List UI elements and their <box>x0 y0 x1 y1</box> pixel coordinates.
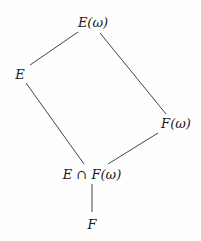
edge-Ew-Fw <box>100 33 166 114</box>
field-lattice-diagram: E(ω) E F(ω) E ∩ F(ω) F <box>0 0 201 241</box>
node-E-omega: E(ω) <box>78 16 108 29</box>
node-F-omega: F(ω) <box>161 117 191 130</box>
edge-E-EcapFw <box>26 83 84 164</box>
node-F: F <box>87 218 96 231</box>
edge-Ew-E <box>30 32 78 65</box>
edge-Fw-EcapFw <box>108 133 158 164</box>
node-E-cap-F-omega: E ∩ F(ω) <box>63 168 121 181</box>
node-E: E <box>15 68 25 81</box>
